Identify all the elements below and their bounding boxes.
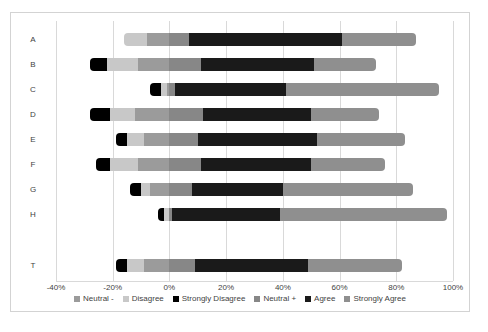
legend-item-neutral-plus: Neutral + [254, 294, 296, 303]
bar-segment-neutral-minus [144, 259, 170, 272]
bar-segment-neutral-minus [135, 108, 169, 121]
legend: Neutral -DisagreeStrongly DisagreeNeutra… [11, 294, 469, 303]
x-tick-label: 20% [218, 283, 234, 292]
chart-frame: Neutral -DisagreeStrongly DisagreeNeutra… [10, 12, 470, 312]
x-tick-label: 100% [443, 283, 463, 292]
bar-segment-neutral-plus [169, 58, 200, 71]
x-tick-label: 80% [388, 283, 404, 292]
bar-segment-agree [172, 208, 280, 221]
legend-label: Strongly Disagree [182, 294, 246, 303]
bar-segment-disagree [127, 259, 144, 272]
legend-item-strongly-agree: Strongly Agree [344, 294, 405, 303]
bar-row-g [130, 183, 414, 196]
legend-item-neutral-minus: Neutral - [74, 294, 114, 303]
bar-segment-strongly-disagree [130, 183, 141, 196]
bar-segment-strongly-agree [311, 108, 379, 121]
bar-segment-neutral-minus [147, 33, 170, 46]
bar-segment-neutral-plus [169, 33, 189, 46]
bar-segment-strongly-agree [342, 33, 416, 46]
legend-swatch-icon [123, 296, 129, 302]
bar-segment-disagree [110, 158, 138, 171]
category-label-h: H [25, 210, 41, 220]
bar-segment-agree [201, 58, 314, 71]
bar-segment-strongly-disagree [116, 133, 127, 146]
bar-segment-neutral-minus [138, 58, 169, 71]
likert-chart: Neutral -DisagreeStrongly DisagreeNeutra… [0, 0, 488, 332]
bar-segment-strongly-disagree [90, 108, 110, 121]
bar-segment-disagree [127, 133, 144, 146]
bar-segment-agree [203, 108, 311, 121]
bar-segment-disagree [107, 58, 138, 71]
legend-label: Disagree [132, 294, 164, 303]
bar-segment-strongly-agree [280, 208, 447, 221]
category-label-t: T [25, 261, 41, 271]
bar-segment-agree [198, 133, 317, 146]
category-label-f: F [25, 160, 41, 170]
x-tick-label: -20% [103, 283, 122, 292]
bar-segment-agree [195, 259, 308, 272]
category-label-e: E [25, 135, 41, 145]
bar-segment-agree [189, 33, 342, 46]
bar-segment-strongly-disagree [150, 83, 161, 96]
bar-segment-strongly-agree [317, 133, 405, 146]
bar-segment-agree [192, 183, 283, 196]
bar-segment-strongly-agree [311, 158, 385, 171]
legend-label: Neutral + [263, 294, 296, 303]
bar-segment-disagree [110, 108, 136, 121]
bar-segment-neutral-plus [169, 133, 197, 146]
bar-row-t [116, 259, 402, 272]
bar-segment-agree [201, 158, 312, 171]
category-label-d: D [25, 110, 41, 120]
bar-segment-strongly-agree [286, 83, 439, 96]
bar-segment-neutral-minus [150, 183, 170, 196]
bar-row-c [150, 83, 439, 96]
bar-segment-neutral-minus [144, 133, 170, 146]
x-tick-label: -40% [47, 283, 66, 292]
legend-label: Strongly Agree [353, 294, 405, 303]
gridline [56, 21, 57, 281]
bar-row-e [116, 133, 405, 146]
bar-segment-strongly-agree [308, 259, 402, 272]
bar-segment-neutral-plus [169, 108, 203, 121]
bar-segment-strongly-disagree [90, 58, 107, 71]
bar-segment-neutral-plus [169, 259, 195, 272]
legend-item-strongly-disagree: Strongly Disagree [173, 294, 246, 303]
bar-segment-disagree [141, 183, 150, 196]
bar-row-d [90, 108, 379, 121]
bar-segment-strongly-agree [283, 183, 413, 196]
bar-segment-strongly-disagree [116, 259, 127, 272]
bar-segment-strongly-agree [314, 58, 376, 71]
legend-swatch-icon [173, 296, 179, 302]
legend-swatch-icon [305, 296, 311, 302]
bar-row-a [124, 33, 416, 46]
bar-segment-agree [175, 83, 286, 96]
gridline [396, 21, 397, 281]
bar-row-f [96, 158, 385, 171]
legend-swatch-icon [254, 296, 260, 302]
x-tick-label: 60% [332, 283, 348, 292]
bar-segment-strongly-disagree [96, 158, 110, 171]
bar-row-h [158, 208, 447, 221]
bar-row-b [90, 58, 376, 71]
legend-swatch-icon [344, 296, 350, 302]
bar-segment-disagree [124, 33, 147, 46]
bar-segment-neutral-plus [169, 183, 192, 196]
legend-item-disagree: Disagree [123, 294, 164, 303]
x-tick-label: 0% [164, 283, 176, 292]
legend-label: Neutral - [83, 294, 114, 303]
legend-label: Agree [314, 294, 335, 303]
gridline [453, 21, 454, 281]
bar-segment-neutral-plus [169, 158, 200, 171]
legend-swatch-icon [74, 296, 80, 302]
category-label-a: A [25, 35, 41, 45]
category-label-c: C [25, 85, 41, 95]
legend-item-agree: Agree [305, 294, 335, 303]
bar-segment-neutral-minus [138, 158, 169, 171]
category-label-g: G [25, 185, 41, 195]
x-tick-label: 40% [275, 283, 291, 292]
category-label-b: B [25, 60, 41, 70]
x-axis-line [56, 281, 453, 282]
